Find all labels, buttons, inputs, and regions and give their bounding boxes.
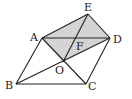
label-c: C	[88, 80, 96, 93]
label-d: D	[113, 33, 122, 46]
label-o: O	[55, 64, 64, 77]
label-f: F	[76, 40, 84, 53]
label-a: A	[29, 31, 39, 44]
label-b: B	[5, 79, 13, 92]
geometry-diagram: A B C D E O F	[0, 0, 132, 99]
label-e: E	[84, 1, 92, 14]
